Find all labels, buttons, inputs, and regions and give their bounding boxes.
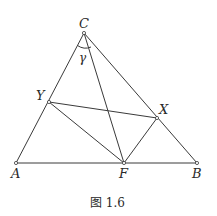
label-y: Y bbox=[36, 88, 46, 103]
point-b bbox=[195, 161, 198, 164]
segment-bc bbox=[84, 33, 197, 163]
segment-xf bbox=[124, 118, 157, 163]
point-f bbox=[122, 161, 125, 164]
figure-caption: 图 1.6 bbox=[90, 196, 125, 210]
segment-cf bbox=[84, 33, 124, 163]
segment-ca bbox=[16, 33, 84, 163]
point-c bbox=[82, 31, 85, 34]
point-y bbox=[47, 100, 50, 103]
label-f: F bbox=[118, 166, 129, 181]
geometry-figure: C γ Y X A F B 图 1.6 bbox=[0, 0, 217, 216]
label-a: A bbox=[10, 166, 20, 181]
label-b: B bbox=[191, 166, 202, 181]
angle-arc-gamma bbox=[78, 46, 92, 49]
label-x: X bbox=[158, 102, 169, 117]
label-gamma: γ bbox=[79, 51, 87, 65]
point-a bbox=[14, 161, 17, 164]
label-c: C bbox=[79, 16, 89, 31]
